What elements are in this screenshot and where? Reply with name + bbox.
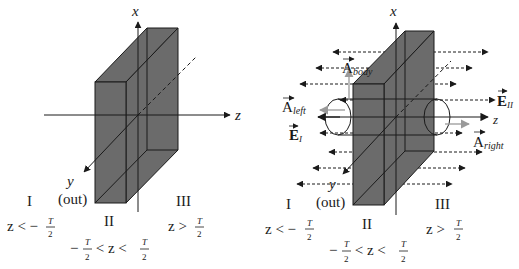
svg-text:A: A [282,99,293,115]
region-II-middle: < z < [92,240,131,256]
y-axis-label: y [65,173,74,189]
A-body-label: A body [342,59,373,77]
left-panel: x z y (out) I z < − T 2 II − T 2 < z < T… [7,3,241,262]
region-III-denominator: 2 [456,232,461,242]
region-II-numerator-2: T [401,239,407,249]
region-III-numerator: T [197,216,203,226]
y-axis-note: (out) [316,194,345,211]
region-III-numerator: T [456,218,462,228]
slab-gauss-diagram: x z y (out) I z < − T 2 II − T 2 < z < T… [0,0,519,269]
z-axis-label: z [234,107,241,123]
region-III-condition: z > [426,221,445,237]
region-I-denominator: 2 [307,232,312,242]
svg-text:E: E [289,127,299,143]
A-right-label: A right [473,132,504,151]
z-axis-label: z [492,112,498,127]
y-axis-label: y [327,176,336,192]
region-II-label: II [362,216,372,232]
svg-text:right: right [484,140,504,151]
region-II-denominator-2: 2 [142,252,147,262]
region-II-minus: − [329,242,337,258]
region-II-middle: < z < [351,242,390,258]
svg-text:E: E [497,93,507,109]
region-I-label: I [27,193,32,209]
region-II-minus: − [70,240,78,256]
region-II-denominator: 2 [344,254,349,264]
region-III-denominator: 2 [197,229,202,239]
region-II-numerator: T [85,237,91,247]
x-axis-label: x [389,3,397,19]
A-left-label: A left [282,98,306,116]
region-II-denominator-2: 2 [401,254,406,264]
region-I-denominator: 2 [48,229,53,239]
region-II-numerator-2: T [142,237,148,247]
y-axis-note: (out) [58,191,87,208]
svg-text:I: I [298,134,303,144]
region-III-label: III [176,193,191,209]
right-panel: x z y (out) A body A left E I E II [265,3,514,264]
svg-text:A: A [473,134,484,150]
slab-front-face [353,84,384,205]
region-I-condition: z < − [7,218,38,234]
svg-text:left: left [293,105,306,116]
x-axis-label: x [131,3,139,19]
slab-front-face [95,82,126,203]
region-I-numerator: T [307,218,313,228]
region-III-label: III [435,196,450,212]
E-I-label: E I [289,126,303,144]
region-III-condition: z > [168,218,187,234]
region-II-numerator: T [344,239,350,249]
svg-text:A: A [342,60,353,76]
region-I-condition: z < − [265,221,296,237]
region-I-numerator: T [48,216,54,226]
region-II-label: II [104,213,114,229]
region-I-label: I [286,196,291,212]
region-II-denominator: 2 [85,252,90,262]
E-II-label: E II [497,91,514,110]
svg-text:body: body [353,66,373,77]
svg-text:II: II [506,100,514,110]
